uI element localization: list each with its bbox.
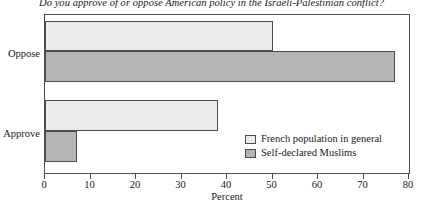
x-tick-label-70: 70 [343, 179, 383, 190]
chart-legend: French population in general Self-declar… [245, 132, 382, 160]
legend-item-french: French population in general [245, 132, 382, 146]
y-axis-label-approve: Approve [0, 128, 40, 139]
x-tick-label-0: 0 [24, 179, 64, 190]
bar-approve-french [45, 100, 218, 131]
x-axis-title: Percent [44, 191, 410, 202]
y-axis-label-oppose-text: Oppose [8, 48, 40, 59]
x-tick-label-60: 60 [297, 179, 337, 190]
x-tick-label-40: 40 [206, 179, 246, 190]
x-tick-label-20: 20 [115, 179, 155, 190]
y-axis-label-oppose: Oppose [0, 48, 40, 59]
legend-swatch-light-icon [245, 135, 256, 144]
x-tick-label-50: 50 [252, 179, 292, 190]
legend-item-muslims: Self-declared Muslims [245, 146, 382, 160]
x-tick-label-30: 30 [161, 179, 201, 190]
legend-label-muslims: Self-declared Muslims [261, 146, 356, 160]
legend-swatch-dark-icon [245, 149, 256, 158]
chart-figure: Do you approve of or oppose American pol… [0, 0, 423, 208]
x-tick-label-80: 80 [388, 179, 423, 190]
chart-title: Do you approve of or oppose American pol… [0, 0, 423, 9]
bar-oppose-muslims [45, 51, 395, 82]
legend-label-french: French population in general [261, 132, 382, 146]
bar-approve-muslims [45, 131, 77, 162]
plot-area: French population in general Self-declar… [44, 14, 410, 174]
y-axis-label-approve-text: Approve [3, 128, 40, 139]
x-tick-label-10: 10 [70, 179, 110, 190]
bar-oppose-french [45, 21, 273, 51]
